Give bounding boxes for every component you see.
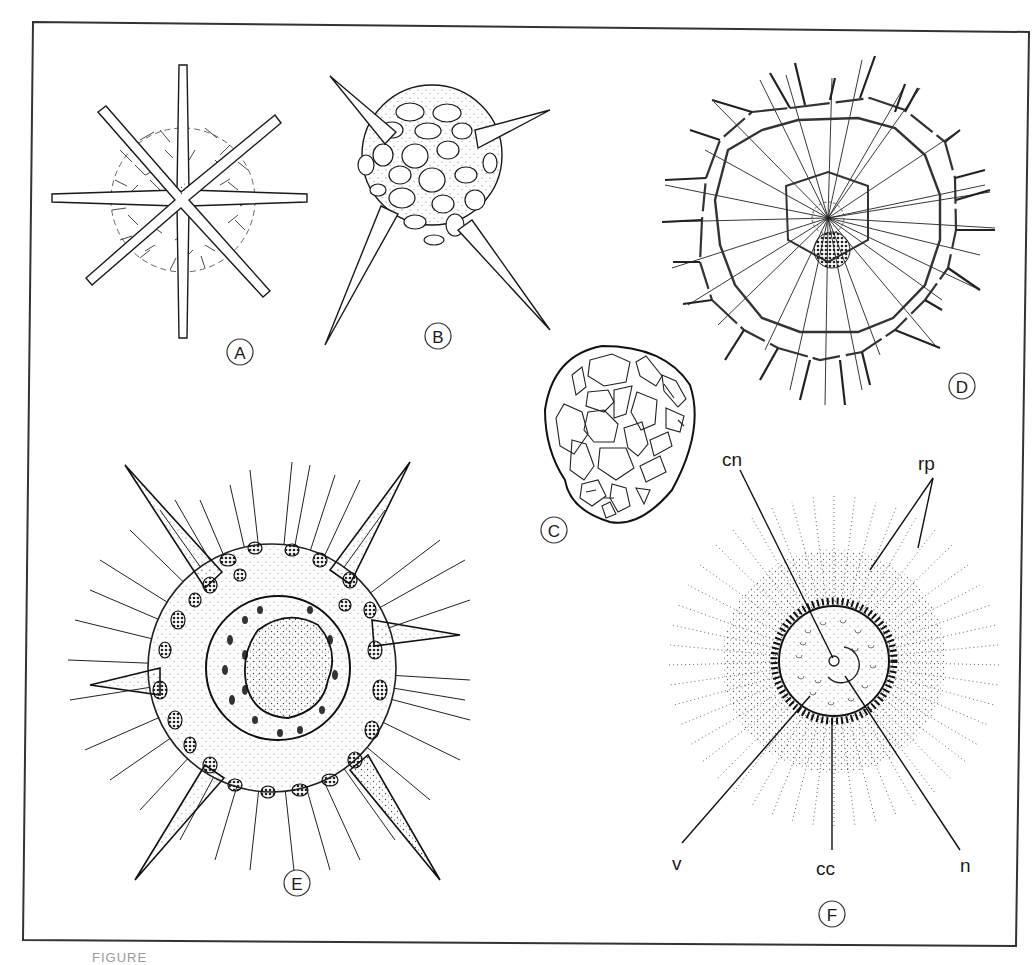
svg-text:C: C [548,522,560,541]
figure-f [669,470,999,850]
svg-text:F: F [827,906,837,925]
annotation-rp: rp [918,453,935,474]
figure-a [52,65,307,338]
figure-e [68,462,470,880]
panel-label-d: D [949,373,975,399]
annotation-n: n [960,855,971,876]
figure-d [662,56,995,405]
annotation-v: v [672,853,682,874]
svg-text:A: A [234,344,246,363]
figure-c [545,346,695,523]
figure-d-dark-core [814,232,850,268]
panel-label-e: E [284,870,310,896]
annotation-cn: cn [722,449,742,470]
panel-label-b: B [425,323,451,349]
annotation-cc: cc [816,858,835,879]
svg-text:B: B [432,328,443,347]
svg-text:E: E [291,875,302,894]
panel-label-a: A [227,339,253,365]
figure-b [325,76,550,345]
figure-a-spines [52,65,307,338]
svg-text:D: D [956,378,968,397]
panel-label-c: C [541,517,567,543]
figure-f-nucleolus [829,656,839,666]
figure-d-light-core [812,202,844,234]
plate-frame [23,22,1029,946]
panel-label-f: F [819,901,845,927]
figure-caption-fragment: FIGURE [92,950,147,965]
